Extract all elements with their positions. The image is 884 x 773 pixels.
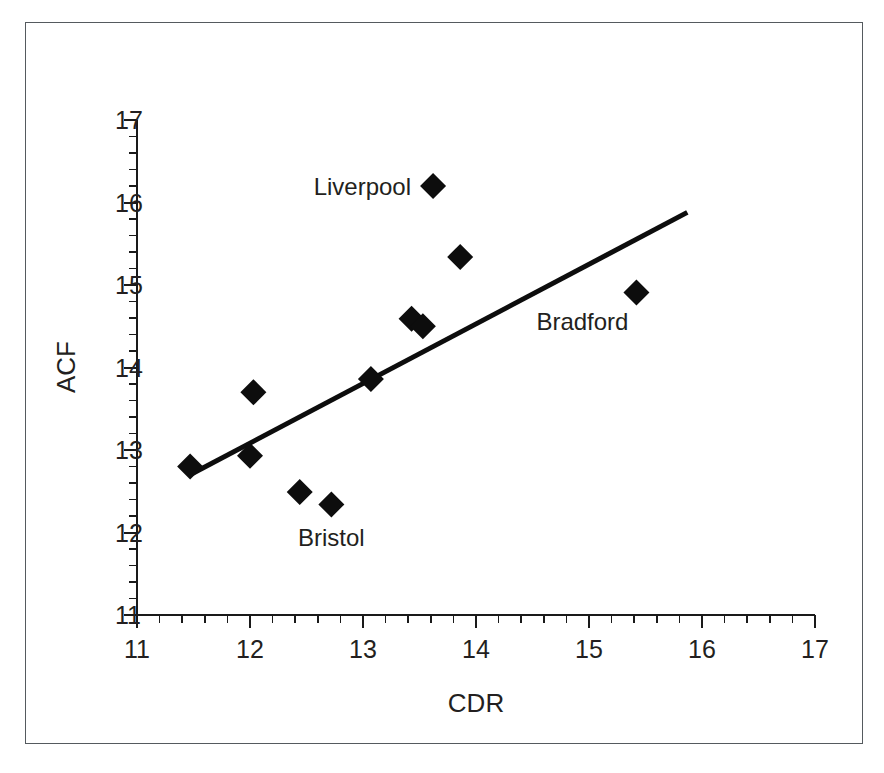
scatter-chart: 11121314151617 11121314151617 LiverpoolB… — [0, 0, 884, 773]
x-tick-label: 15 — [575, 637, 603, 662]
axes — [124, 120, 815, 628]
data-point-diamond — [623, 279, 649, 305]
data-markers — [177, 173, 649, 517]
data-point-diamond — [240, 379, 266, 405]
data-point-diamond — [287, 479, 313, 505]
point-label-liverpool: Liverpool — [314, 175, 411, 199]
data-point-diamond — [420, 173, 446, 199]
regression-line — [190, 212, 687, 474]
y-axis-title: ACF — [53, 341, 79, 393]
x-tick-label: 17 — [801, 637, 829, 662]
x-tick-label: 12 — [236, 637, 264, 662]
trend-line — [190, 212, 687, 474]
data-point-diamond — [447, 244, 473, 270]
point-label-bristol: Bristol — [298, 526, 365, 550]
data-point-diamond — [318, 491, 344, 517]
x-tick-label: 14 — [462, 637, 490, 662]
x-tick-label: 13 — [349, 637, 377, 662]
x-tick-label: 16 — [688, 637, 716, 662]
point-label-bradford: Bradford — [536, 310, 628, 334]
data-point-diamond — [358, 366, 384, 392]
x-tick-label: 11 — [124, 637, 150, 662]
data-point-diamond — [177, 454, 203, 480]
x-axis-title: CDR — [448, 690, 504, 716]
